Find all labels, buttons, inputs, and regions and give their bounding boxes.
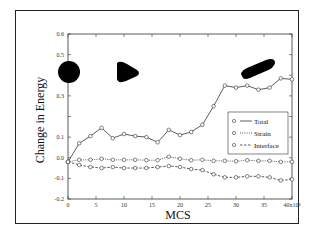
data-point [167,128,171,132]
data-point [156,165,160,169]
data-point [223,176,227,180]
data-point [268,86,272,90]
legend-marker-icon [232,119,235,122]
data-point [122,132,126,136]
y-tick-label: -0.1 [55,175,65,181]
elongated-particle-shape [241,59,275,79]
x-tick-label: 10 [121,202,127,208]
x-tick-label: 0 [67,202,70,208]
x-tick-label: 35 [261,202,267,208]
data-point [290,178,294,182]
data-point [77,158,81,162]
data-point [189,158,193,162]
data-point [257,175,261,179]
data-point [111,136,115,140]
data-point [257,159,261,163]
data-point [189,167,193,171]
x-tick-label: 15 [149,202,155,208]
x-tick-label: 5 [95,202,98,208]
data-point [145,158,149,162]
data-point [234,176,238,180]
data-point [201,168,205,172]
y-axis-label: Change in Energy [33,77,47,163]
energy-chart: 0510152025303540x10⁴-0.2-0.10.00.10.30.5… [0,0,328,239]
x-tick-label: 30 [233,202,239,208]
y-tick-label: 0.0 [57,155,65,161]
data-point [212,159,216,163]
data-point [290,78,294,82]
data-point [167,164,171,168]
x-axis-label: MCS [165,208,190,222]
data-point [156,158,160,162]
data-point [167,155,171,159]
legend-marker-icon [232,143,235,146]
data-point [201,123,205,127]
legend-label-strain: Strain [254,130,271,138]
y-tick-label: 0.3 [57,93,65,99]
data-point [100,126,104,130]
data-point [122,158,126,162]
data-point [89,165,93,169]
data-point [245,158,249,162]
data-point [178,133,182,137]
data-point [111,165,115,169]
data-point [279,179,283,183]
particle-shapes [58,59,275,83]
data-point [290,160,294,164]
triangle-particle-shape [117,62,139,82]
data-point [245,175,249,179]
data-point [212,104,216,108]
data-point [178,165,182,169]
legend-marker-icon [232,131,235,134]
data-point [268,176,272,180]
legend: TotalStrainInterface [228,112,288,154]
data-point [89,134,93,138]
data-point [223,159,227,163]
data-point [145,135,149,139]
x-tick-label: 25 [205,202,211,208]
data-point [189,130,193,134]
data-point [156,140,160,144]
data-point [100,166,104,170]
data-point [111,158,115,162]
y-tick-label: 0.6 [57,31,65,37]
data-point [145,166,149,170]
y-tick-label: 0.5 [57,52,65,58]
circle-particle-shape [58,61,80,83]
data-point [178,157,182,161]
data-point [279,160,283,164]
data-point [268,159,272,163]
x-tick-label: 40x10⁴ [283,202,300,208]
data-point [133,166,137,170]
data-point [234,159,238,163]
y-tick-label: -0.2 [55,196,65,202]
data-point [133,134,137,138]
legend-label-interface: Interface [254,142,279,150]
data-point [122,166,126,170]
data-point [89,158,93,162]
data-point [223,84,227,88]
data-point [234,86,238,90]
data-point [257,88,261,92]
data-point [279,77,283,81]
data-point [212,172,216,176]
data-point [77,142,81,146]
y-tick-label: 0.1 [57,134,65,140]
data-point [66,160,70,164]
legend-label-total: Total [254,118,268,126]
data-point [201,158,205,162]
data-point [77,163,81,167]
data-point [133,158,137,162]
data-point [100,157,104,161]
data-point [245,84,249,88]
